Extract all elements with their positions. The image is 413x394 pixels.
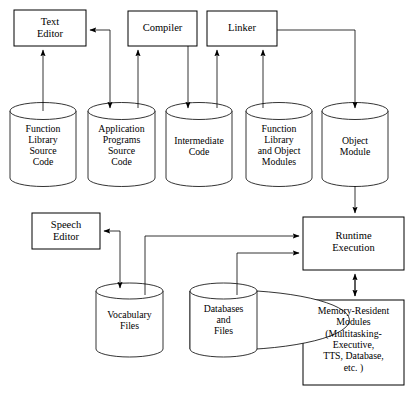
cylinder-application-programs-source-code[interactable] (88, 103, 155, 187)
cylinder-vocabulary-files[interactable] (96, 283, 163, 357)
diagram-svg (0, 0, 413, 394)
connector-linker-to-object-module (277, 30, 355, 108)
box-runtime-execution[interactable] (303, 217, 404, 270)
diagram-canvas: Text Editor Compiler Linker Speech Edito… (0, 0, 413, 394)
cylinder-object-module[interactable] (322, 103, 388, 187)
box-compiler[interactable] (128, 11, 197, 46)
cylinder-intermediate-code[interactable] (166, 103, 232, 187)
box-linker[interactable] (207, 11, 277, 46)
cylinder-function-library-object-modules[interactable] (246, 103, 312, 187)
cylinder-function-library-source-code[interactable] (10, 103, 76, 187)
box-text-editor[interactable] (14, 10, 86, 46)
box-speech-editor[interactable] (32, 213, 100, 249)
